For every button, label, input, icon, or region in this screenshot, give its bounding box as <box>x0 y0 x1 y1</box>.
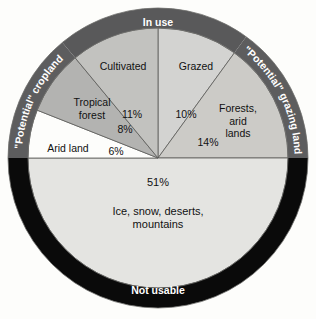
chart-page: In use"Potential" grazing land"Potential… <box>0 0 316 319</box>
slice-label-arid-land: Arid land <box>47 142 89 154</box>
slice-percent-cultivated: 11% <box>122 108 142 120</box>
slice-percent-ice-snow-deserts-mountains: 51% <box>147 176 169 188</box>
slice-label-tropical-forest: Tropicalforest <box>74 96 111 121</box>
ring-label-in-use: In use <box>143 16 174 28</box>
slice-percent-tropical-forest: 8% <box>117 123 132 135</box>
slice-label-grazed: Grazed <box>179 60 214 72</box>
pie-slices <box>28 28 288 288</box>
slice-percent-forests-arid-lands: 14% <box>197 136 218 148</box>
ring-label-not-usable: Not usable <box>131 284 185 296</box>
slice-percent-arid-land: 6% <box>108 145 123 157</box>
land-use-pie-chart: In use"Potential" grazing land"Potential… <box>0 0 316 319</box>
slice-percent-grazed: 10% <box>175 108 196 120</box>
slice-label-cultivated: Cultivated <box>100 60 147 72</box>
